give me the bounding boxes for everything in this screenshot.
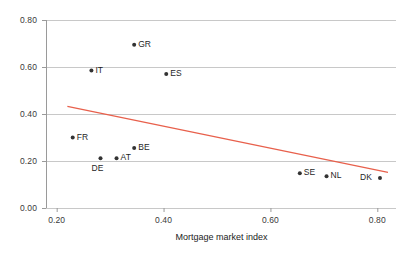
scatter-chart: 0.000.200.400.600.800.200.400.600.80 GRI… — [0, 0, 407, 256]
trend-line — [67, 106, 388, 172]
point-label-se: SE — [304, 167, 316, 177]
point-label-nl: NL — [331, 170, 342, 180]
y-tick-label: 0.80 — [5, 15, 37, 25]
data-point[interactable] — [71, 136, 75, 140]
point-label-de: DE — [92, 163, 104, 173]
x-tick-label: 0.20 — [37, 215, 77, 225]
x-tick-label: 0.40 — [144, 215, 184, 225]
point-label-dk: DK — [360, 172, 372, 182]
point-label-be: BE — [138, 142, 150, 152]
data-point[interactable] — [325, 174, 329, 178]
point-label-fr: FR — [77, 132, 89, 142]
y-tick-label: 0.00 — [5, 203, 37, 213]
y-tick-label: 0.20 — [5, 156, 37, 166]
data-point[interactable] — [89, 69, 93, 73]
data-point[interactable] — [115, 156, 119, 160]
data-point[interactable] — [132, 146, 136, 150]
point-label-at: AT — [121, 152, 131, 162]
y-tick-label: 0.60 — [5, 62, 37, 72]
data-point[interactable] — [99, 156, 103, 160]
data-point[interactable] — [132, 43, 136, 47]
data-point[interactable] — [164, 72, 168, 76]
point-label-gr: GR — [138, 39, 151, 49]
point-label-es: ES — [170, 68, 182, 78]
data-point[interactable] — [298, 171, 302, 175]
x-tick-label: 0.80 — [357, 215, 397, 225]
x-axis-title: Mortgage market index — [0, 232, 407, 242]
y-tick-label: 0.40 — [5, 109, 37, 119]
x-tick-label: 0.60 — [250, 215, 290, 225]
point-label-it: IT — [95, 65, 103, 75]
data-point[interactable] — [378, 176, 382, 180]
